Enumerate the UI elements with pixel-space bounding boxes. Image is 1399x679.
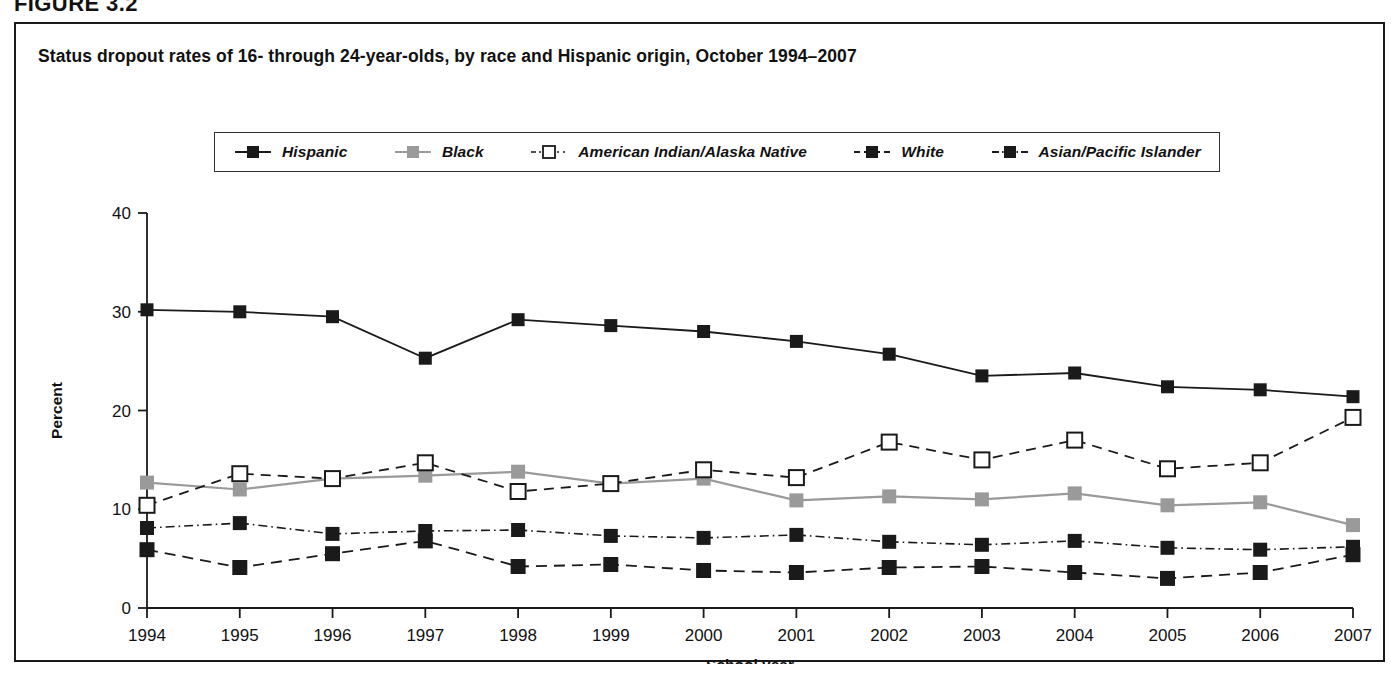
x-axis-tick-label: 2003	[963, 626, 1001, 645]
data-point-marker	[604, 529, 618, 543]
figure-label: FIGURE 3.2	[14, 0, 138, 17]
data-point-marker	[975, 492, 989, 506]
data-point-marker	[232, 466, 247, 481]
data-point-marker	[233, 305, 246, 318]
x-axis-tick-label: 1997	[406, 626, 444, 645]
x-axis-title: School year	[706, 656, 794, 664]
data-point-marker	[141, 303, 154, 316]
data-point-marker	[882, 560, 897, 575]
data-point-marker	[790, 335, 803, 348]
data-point-marker	[883, 348, 896, 361]
chart-svg: 0102030401994199519961997199819992000200…	[16, 24, 1387, 664]
series-black	[140, 465, 1360, 532]
data-point-marker	[511, 523, 525, 537]
x-axis-tick-label: 1995	[221, 626, 259, 645]
data-point-marker	[696, 462, 711, 477]
data-point-marker	[1068, 486, 1082, 500]
x-axis-tick-label: 2004	[1056, 626, 1094, 645]
x-axis-tick-label: 1996	[314, 626, 352, 645]
y-axis-tick-label: 20	[112, 402, 131, 421]
series-american-indian-alaska-native	[140, 410, 1361, 513]
data-point-marker	[603, 557, 618, 572]
data-point-marker	[511, 559, 526, 574]
data-point-marker	[975, 538, 989, 552]
data-point-marker	[1346, 518, 1360, 532]
data-point-marker	[1254, 383, 1267, 396]
x-axis-tick-label: 2006	[1241, 626, 1279, 645]
data-point-marker	[511, 484, 526, 499]
x-axis-tick-label: 2000	[685, 626, 723, 645]
data-point-marker	[325, 546, 340, 561]
data-point-marker	[325, 471, 340, 486]
y-axis-title: Percent	[48, 382, 65, 439]
data-point-marker	[974, 559, 989, 574]
data-point-marker	[697, 531, 711, 545]
data-point-marker	[1161, 380, 1174, 393]
chart-series	[140, 303, 1361, 586]
data-point-marker	[140, 521, 154, 535]
data-point-marker	[789, 493, 803, 507]
data-point-marker	[789, 565, 804, 580]
figure-panel: Status dropout rates of 16- through 24-y…	[14, 22, 1385, 662]
data-point-marker	[604, 319, 617, 332]
data-point-marker	[1253, 565, 1268, 580]
figure-page: FIGURE 3.2 Status dropout rates of 16- t…	[0, 0, 1399, 679]
y-axis-tick-label: 10	[112, 500, 131, 519]
data-point-marker	[1347, 390, 1360, 403]
line-chart-plot: 0102030401994199519961997199819992000200…	[16, 24, 1387, 664]
data-point-marker	[1160, 571, 1175, 586]
data-point-marker	[696, 563, 711, 578]
data-point-marker	[697, 325, 710, 338]
x-axis-tick-label: 2005	[1149, 626, 1187, 645]
data-point-marker	[233, 516, 247, 530]
data-point-marker	[789, 528, 803, 542]
data-point-marker	[789, 470, 804, 485]
data-point-marker	[418, 455, 433, 470]
series-asian-pacific-islander	[140, 516, 1360, 557]
data-point-marker	[1161, 498, 1175, 512]
data-point-marker	[1068, 367, 1081, 380]
data-point-marker	[1160, 461, 1175, 476]
data-point-marker	[512, 313, 525, 326]
data-point-marker	[882, 489, 896, 503]
x-axis-tick-label: 2002	[870, 626, 908, 645]
x-axis-tick-label: 1998	[499, 626, 537, 645]
data-point-marker	[975, 369, 988, 382]
data-point-marker	[140, 476, 154, 490]
data-point-marker	[1068, 534, 1082, 548]
data-point-marker	[419, 352, 432, 365]
data-point-marker	[140, 542, 155, 557]
data-point-marker	[140, 498, 155, 513]
data-point-marker	[882, 435, 897, 450]
data-point-marker	[882, 535, 896, 549]
data-point-marker	[1346, 540, 1360, 554]
chart-axis-labels: 0102030401994199519961997199819992000200…	[48, 204, 1372, 664]
data-point-marker	[326, 527, 340, 541]
data-point-marker	[511, 465, 525, 479]
data-point-marker	[603, 476, 618, 491]
data-point-marker	[232, 560, 247, 575]
x-axis-tick-label: 2001	[777, 626, 815, 645]
data-point-marker	[418, 524, 432, 538]
y-axis-tick-label: 30	[112, 303, 131, 322]
data-point-marker	[1253, 495, 1267, 509]
data-point-marker	[1253, 543, 1267, 557]
data-point-marker	[1161, 541, 1175, 555]
series-hispanic	[141, 303, 1360, 403]
data-point-marker	[1067, 565, 1082, 580]
series-white	[140, 533, 1361, 586]
y-axis-tick-label: 0	[122, 599, 131, 618]
x-axis-tick-label: 2007	[1334, 626, 1372, 645]
y-axis-tick-label: 40	[112, 204, 131, 223]
data-point-marker	[1067, 433, 1082, 448]
x-axis-tick-label: 1994	[128, 626, 166, 645]
data-point-marker	[233, 483, 247, 497]
chart-axes	[138, 213, 1353, 618]
data-point-marker	[974, 452, 989, 467]
data-point-marker	[326, 310, 339, 323]
data-point-marker	[1253, 455, 1268, 470]
x-axis-tick-label: 1999	[592, 626, 630, 645]
data-point-marker	[1346, 410, 1361, 425]
